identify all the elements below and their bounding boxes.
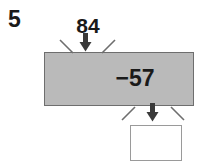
answer-input-box[interactable] <box>130 125 182 161</box>
operation-value-label: −57 <box>100 67 170 90</box>
question-number: 5 <box>8 8 21 31</box>
worksheet-question-panel: 5 84 −57 <box>0 0 208 164</box>
input-value-label: 84 <box>70 15 106 36</box>
bottom-right-tick-icon <box>171 107 184 120</box>
bottom-left-tick-icon <box>122 107 135 120</box>
